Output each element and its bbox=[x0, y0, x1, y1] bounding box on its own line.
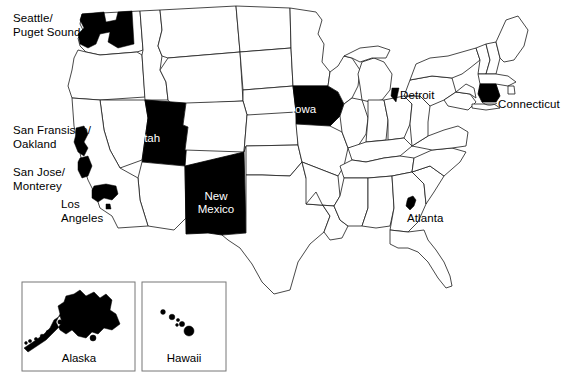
label-san-jose-monterey: San Jose/ Monterey bbox=[13, 166, 65, 193]
label-los-angeles: Los Angeles bbox=[61, 198, 103, 225]
marker-los-angeles-dot bbox=[106, 204, 111, 209]
state-oregon bbox=[68, 50, 145, 100]
shape-alaska-island-7 bbox=[25, 342, 28, 345]
shape-hawaii-lanai bbox=[176, 324, 179, 327]
shape-alaska-island-3 bbox=[46, 330, 50, 334]
state-maine bbox=[496, 16, 528, 62]
state-north-dakota bbox=[236, 6, 291, 52]
state-indiana bbox=[366, 100, 388, 142]
label-seattle-puget-sound: Seattle/ Puget Sound bbox=[13, 12, 81, 39]
shape-hawaii-kauai bbox=[161, 310, 166, 315]
state-new-york bbox=[410, 48, 480, 80]
label-utah: Utah bbox=[118, 132, 178, 145]
us-map-figure: Seattle/ Puget Sound San Fransisco/ Oakl… bbox=[0, 0, 575, 389]
label-new-mexico: New Mexico bbox=[186, 190, 246, 216]
shape-alaska-island-5 bbox=[34, 337, 37, 340]
shape-alaska-kodiak bbox=[90, 335, 96, 341]
label-detroit: Detroit bbox=[400, 89, 435, 103]
shape-alaska-island-1 bbox=[58, 320, 62, 324]
shape-alaska-island-4 bbox=[40, 334, 44, 338]
state-montana bbox=[158, 6, 240, 58]
state-south-dakota bbox=[240, 48, 293, 90]
state-rhode-island bbox=[508, 86, 515, 94]
shape-hawaii-maui bbox=[179, 321, 184, 326]
state-ohio bbox=[384, 96, 412, 140]
state-minnesota bbox=[290, 8, 330, 86]
label-san-francisco-oakland: San Fransisco/ Oakland bbox=[13, 124, 91, 151]
state-colorado bbox=[183, 101, 247, 152]
label-iowa: Iowa bbox=[274, 103, 334, 116]
label-hawaii: Hawaii bbox=[124, 352, 244, 364]
shape-alaska-island-8 bbox=[64, 310, 69, 315]
label-atlanta: Atlanta bbox=[407, 212, 444, 226]
label-connecticut: Connecticut bbox=[498, 98, 560, 112]
state-wyoming bbox=[160, 52, 243, 105]
map-canvas bbox=[0, 0, 575, 389]
shape-hawaii-oahu bbox=[169, 314, 175, 320]
state-florida bbox=[390, 230, 452, 288]
shape-hawaii-big-island bbox=[184, 326, 194, 336]
label-alaska: Alaska bbox=[19, 352, 139, 364]
state-connecticut-highlighted bbox=[478, 84, 500, 102]
shape-alaska-island-2 bbox=[52, 325, 56, 329]
state-michigan bbox=[358, 58, 392, 102]
shape-alaska-island-6 bbox=[28, 339, 31, 342]
shape-hawaii-molokai bbox=[176, 318, 179, 321]
